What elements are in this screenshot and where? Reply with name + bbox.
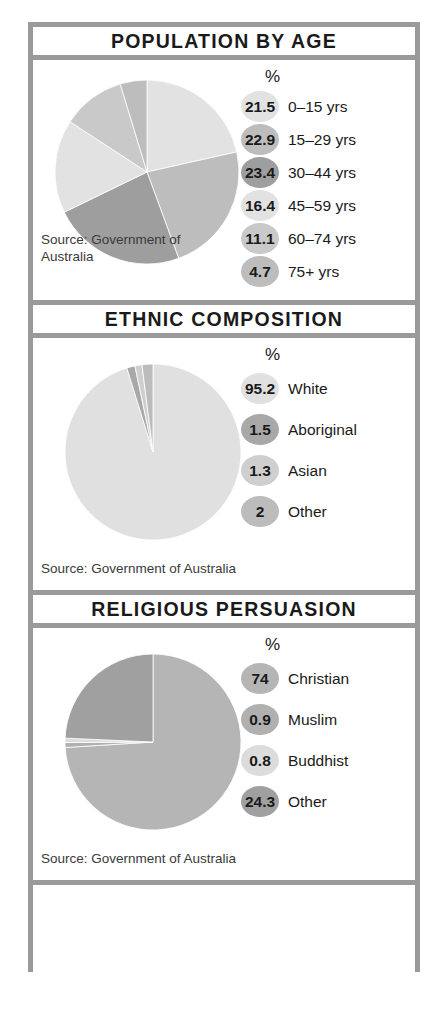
legend-bubble: 4.7: [241, 256, 279, 287]
pie-svg-ethnic: [53, 352, 253, 552]
legend-label: Muslim: [288, 711, 337, 729]
legend-bubble: 16.4: [241, 190, 279, 221]
legend-label: Aboriginal: [288, 421, 357, 439]
list-item: 2 Other: [241, 491, 401, 532]
list-item: 16.4 45–59 yrs: [241, 189, 401, 222]
section-title-bar: RELIGIOUS PERSUASION: [33, 590, 415, 628]
list-item: 0.9 Muslim: [241, 699, 401, 740]
list-item: 1.3 Asian: [241, 450, 401, 491]
legend-bubble: 2: [241, 496, 279, 527]
source-note: Source: Government of Australia: [41, 232, 221, 266]
pie-chart-religious: [53, 642, 253, 846]
legend-bubble: 0.8: [241, 745, 279, 776]
legend-label: Asian: [288, 462, 327, 480]
legend-bubble: 11.1: [241, 223, 279, 254]
list-item: 22.9 15–29 yrs: [241, 123, 401, 156]
legend-bubble: 22.9: [241, 124, 279, 155]
legend-percent-header: %: [265, 344, 401, 366]
pie-chart-ethnic: [53, 352, 253, 556]
infographic-frame: POPULATION BY AGE % 21.5 0–15 yrs 22.9 1…: [28, 22, 420, 972]
legend-bubble: 95.2: [241, 373, 279, 404]
list-item: 24.3 Other: [241, 781, 401, 822]
list-item: 1.5 Aboriginal: [241, 409, 401, 450]
legend-label: 0–15 yrs: [288, 98, 347, 116]
section-title-bar: ETHNIC COMPOSITION: [33, 300, 415, 338]
page-title: POPULATION BY AGE: [111, 30, 337, 53]
list-item: 23.4 30–44 yrs: [241, 156, 401, 189]
pie-svg-religious: [53, 642, 253, 842]
legend-bubble: 23.4: [241, 157, 279, 188]
source-note: Source: Government of Australia: [41, 851, 236, 868]
pie-slice: [65, 654, 153, 742]
infographic-page: POPULATION BY AGE % 21.5 0–15 yrs 22.9 1…: [0, 0, 437, 1022]
source-note: Source: Government of Australia: [41, 561, 236, 578]
legend-bubble: 1.3: [241, 455, 279, 486]
legend-label: 30–44 yrs: [288, 164, 356, 182]
list-item: 74 Christian: [241, 658, 401, 699]
list-item: 0.8 Buddhist: [241, 740, 401, 781]
legend-label: 15–29 yrs: [288, 131, 356, 149]
legend-bubble: 24.3: [241, 786, 279, 817]
section-body: % 95.2 White 1.5 Aboriginal 1.3 Asian 2: [33, 338, 415, 590]
legend-population: % 21.5 0–15 yrs 22.9 15–29 yrs 23.4 30–4…: [241, 66, 401, 288]
legend-ethnic: % 95.2 White 1.5 Aboriginal 1.3 Asian 2: [241, 344, 401, 532]
legend-label: 60–74 yrs: [288, 230, 356, 248]
list-item: 95.2 White: [241, 368, 401, 409]
legend-label: 75+ yrs: [288, 263, 339, 281]
legend-percent-header: %: [265, 634, 401, 656]
legend-bubble: 1.5: [241, 414, 279, 445]
list-item: 21.5 0–15 yrs: [241, 90, 401, 123]
legend-bubble: 21.5: [241, 91, 279, 122]
legend-label: Other: [288, 793, 327, 811]
section-population-by-age: POPULATION BY AGE % 21.5 0–15 yrs 22.9 1…: [33, 22, 415, 300]
list-item: 4.7 75+ yrs: [241, 255, 401, 288]
legend-bubble: 74: [241, 663, 279, 694]
legend-percent-header: %: [265, 66, 401, 88]
section-religious-persuasion: RELIGIOUS PERSUASION % 74 Christian 0.9 …: [33, 590, 415, 885]
page-title: RELIGIOUS PERSUASION: [91, 598, 357, 621]
page-title: ETHNIC COMPOSITION: [105, 308, 343, 331]
legend-label: White: [288, 380, 328, 398]
legend-bubble: 0.9: [241, 704, 279, 735]
section-body: % 21.5 0–15 yrs 22.9 15–29 yrs 23.4 30–4…: [33, 60, 415, 300]
legend-label: Buddhist: [288, 752, 348, 770]
legend-religious: % 74 Christian 0.9 Muslim 0.8 Buddhist: [241, 634, 401, 822]
section-body: % 74 Christian 0.9 Muslim 0.8 Buddhist: [33, 628, 415, 880]
legend-label: Other: [288, 503, 327, 521]
legend-label: Christian: [288, 670, 349, 688]
section-ethnic-composition: ETHNIC COMPOSITION % 95.2 White 1.5 Abor…: [33, 300, 415, 590]
legend-label: 45–59 yrs: [288, 197, 356, 215]
list-item: 11.1 60–74 yrs: [241, 222, 401, 255]
section-title-bar: POPULATION BY AGE: [33, 22, 415, 60]
